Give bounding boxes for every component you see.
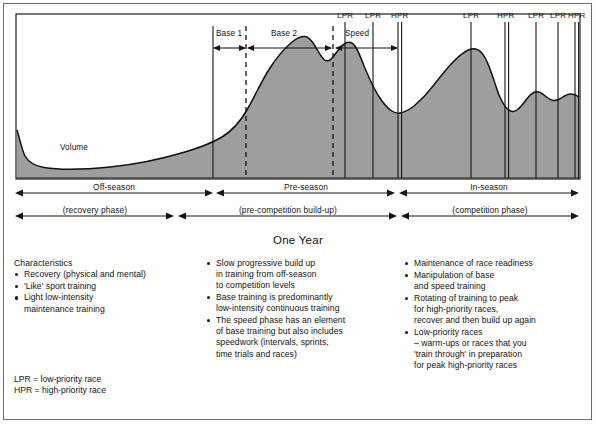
bullet-line: recover and then build up again [414,315,590,326]
bullet-dot-icon [405,274,408,277]
race-label-lpr-5: LPR [550,11,566,20]
list-item: The speed phase has an element of base t… [206,315,396,360]
bullet-line: 'train through' in preparation [414,349,590,360]
bullet-line: Base training is predominantly [216,292,396,303]
phase-label-base-1: Base 1 [216,29,242,38]
figure-page: Volume Base 1 Base 2 Speed LPR LPR HPR L… [0,0,596,424]
bullet-dot-icon [207,296,210,299]
list-item: Recovery (physical and mental) [14,269,204,280]
season-label-off-season: Off-season [0,182,228,192]
list-item: Rotating of training to peak for high-pr… [404,293,590,327]
bullet-dot-icon [207,319,210,322]
bullet-line: for high-priority races, [414,304,590,315]
bullet-dot-icon [405,297,408,300]
phase-label-base-2: Base 2 [271,29,297,38]
race-label-hpr-2: HPR [497,11,515,20]
key-hpr: HPR = high-priority race [14,385,106,396]
characteristics-heading: Characteristics [14,258,204,268]
bullet-line: The speed phase has an element [216,315,396,326]
bullet-line: to competition levels [216,280,396,291]
bullet-dot-icon [405,262,408,265]
race-abbreviation-key: LPR = low-priority race HPR = high-prior… [14,374,106,397]
column-off-season: Characteristics Recovery (physical and m… [14,258,204,315]
bullet-line: Manipulation of base [414,270,590,281]
characteristics-columns: Characteristics Recovery (physical and m… [0,258,596,418]
column-pre-season: Slow progressive build up in training fr… [206,258,396,360]
season-label-in-season: In-season [399,182,579,192]
bullet-line: – warm-ups or races that you [414,338,590,349]
bullet-line: speedwork (intervals, sprints, [216,337,396,348]
list-item: Slow progressive build up in training fr… [206,258,396,292]
page-title: One Year [0,234,596,246]
list-item: Low-priority races – warm-ups or races t… [404,327,590,372]
bullet-line: Rotating of training to peak [414,293,590,304]
volume-axis-label: Volume [60,143,88,152]
bullet-line: in training from off-season [216,269,396,280]
training-periodisation-chart: Volume Base 1 Base 2 Speed LPR LPR HPR L… [0,0,596,232]
race-label-lpr-2: LPR [365,11,381,20]
race-label-lpr-4: LPR [528,11,544,20]
key-lpr: LPR = low-priority race [14,374,106,385]
phase-label-speed: Speed [345,29,369,38]
bullet-line: and speed training [414,281,590,292]
race-label-hpr-3: HPR [568,11,586,20]
chart-svg [0,0,596,232]
race-label-lpr-1: LPR [337,11,353,20]
bullet-line: Slow progressive build up [216,258,396,269]
pre-season-bullet-list: Slow progressive build up in training fr… [206,258,396,360]
phase-label-precompetition: (pre-competition build-up) [178,205,398,215]
bullet-line: Light low-intensity [24,292,204,303]
bullet-dot-icon [15,296,18,299]
race-label-lpr-3: LPR [463,11,479,20]
phase-label-competition: (competition phase) [401,205,579,215]
bullet-line: Recovery (physical and mental) [24,269,204,280]
off-season-bullet-list: Recovery (physical and mental) 'Like' sp… [14,269,204,315]
list-item: Base training is predominantly low-inten… [206,292,396,314]
bullet-line: 'Like' sport training [24,281,204,292]
bullet-dot-icon [207,262,210,265]
bullet-dot-icon [15,273,18,276]
list-item: Maintenance of race readiness [404,258,590,269]
list-item: Light low-intensity maintenance training [14,292,204,314]
bullet-line: for peak high-priority races [414,360,590,371]
list-item: 'Like' sport training [14,281,204,292]
column-in-season: Maintenance of race readiness Manipulati… [404,258,590,372]
season-label-pre-season: Pre-season [216,182,396,192]
bullet-dot-icon [405,331,408,334]
bullet-line: Maintenance of race readiness [414,258,590,269]
bullet-line: time trials and races) [216,349,396,360]
bullet-dot-icon [15,285,18,288]
bullet-line: Low-priority races [414,327,590,338]
bullet-line: low-intensity continuous training [216,303,396,314]
phase-label-recovery: (recovery phase) [0,205,190,215]
race-label-hpr-1: HPR [391,11,409,20]
list-item: Manipulation of base and speed training [404,270,590,292]
in-season-bullet-list: Maintenance of race readiness Manipulati… [404,258,590,372]
bullet-line: of base training but also includes [216,326,396,337]
bullet-line: maintenance training [24,304,204,315]
